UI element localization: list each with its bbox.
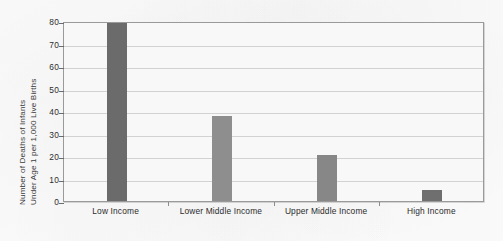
- gridline: [64, 136, 483, 137]
- y-axis-tick-label: 10: [35, 175, 59, 185]
- bar: [317, 155, 337, 201]
- gridline: [64, 46, 483, 47]
- y-axis-tick-label: 70: [35, 40, 59, 50]
- y-axis-tick-label: 30: [35, 130, 59, 140]
- y-axis-tick: [59, 46, 64, 47]
- y-axis-tick: [59, 136, 64, 137]
- gridline: [64, 113, 483, 114]
- y-axis-tick: [59, 91, 64, 92]
- plot-area: [63, 22, 484, 202]
- y-axis-tick: [59, 68, 64, 69]
- plot-inner: [64, 23, 483, 201]
- bar: [212, 116, 232, 202]
- y-axis-tick: [59, 23, 64, 24]
- y-axis-tick-label: 0: [35, 197, 59, 207]
- gridline: [64, 181, 483, 182]
- y-axis-title-line-1: Number of Deaths of Infants: [18, 100, 29, 205]
- y-axis-tick-label: 50: [35, 85, 59, 95]
- y-axis-tick-labels: 01020304050607080: [33, 22, 59, 202]
- bar: [422, 190, 442, 201]
- y-axis-tick: [59, 181, 64, 182]
- y-axis-tick: [59, 158, 64, 159]
- gridline: [64, 68, 483, 69]
- y-axis-tick: [59, 203, 64, 204]
- x-axis-category-label: High Income: [379, 206, 484, 216]
- x-axis-category-label: Lower Middle Income: [168, 206, 273, 216]
- y-axis-tick-label: 20: [35, 152, 59, 162]
- y-axis-tick: [59, 113, 64, 114]
- gridline: [64, 158, 483, 159]
- bar: [107, 23, 127, 201]
- x-axis-category-label: Upper Middle Income: [274, 206, 379, 216]
- gridline: [64, 91, 483, 92]
- y-axis-tick-label: 80: [35, 17, 59, 27]
- bar-chart-figure: Number of Deaths of Infants Under Age 1 …: [0, 0, 503, 241]
- y-axis-tick-label: 60: [35, 62, 59, 72]
- y-axis-tick-label: 40: [35, 107, 59, 117]
- x-axis-category-label: Low Income: [63, 206, 168, 216]
